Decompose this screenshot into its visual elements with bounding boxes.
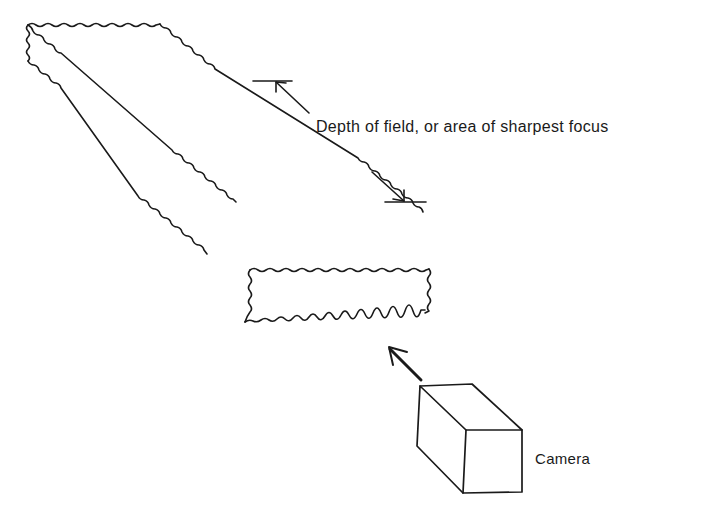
- camera-side-face: [417, 386, 466, 493]
- slab-top-back-edge: [28, 24, 160, 27]
- slab-front-bottom-edge: [245, 305, 425, 322]
- depth-dimension-markers: [253, 81, 426, 202]
- slab-back-left-edge: [27, 25, 30, 61]
- depth-of-field-label: Depth of field, or area of sharpest focu…: [316, 118, 608, 136]
- camera-label: Camera: [535, 450, 590, 467]
- slab-bottom-left-edge: [28, 61, 207, 254]
- slab-front-right-edge: [425, 269, 431, 313]
- diagram-canvas: [0, 0, 705, 512]
- focus-slab: [27, 24, 431, 323]
- slab-inner-long-edge: [28, 25, 236, 202]
- slab-front-top-edge: [250, 269, 429, 272]
- view-arrow-shaft: [390, 349, 421, 380]
- slab-front-left-edge: [245, 270, 252, 322]
- view-direction-arrow: [389, 347, 421, 380]
- depth-of-field-diagram: Depth of field, or area of sharpest focu…: [0, 0, 705, 512]
- depth-top-arrow-shaft: [276, 82, 309, 113]
- camera-top-face: [420, 384, 522, 430]
- camera-box: [417, 384, 522, 493]
- depth-bottom-arrow-shaft: [372, 172, 404, 201]
- camera-front-face: [463, 430, 522, 493]
